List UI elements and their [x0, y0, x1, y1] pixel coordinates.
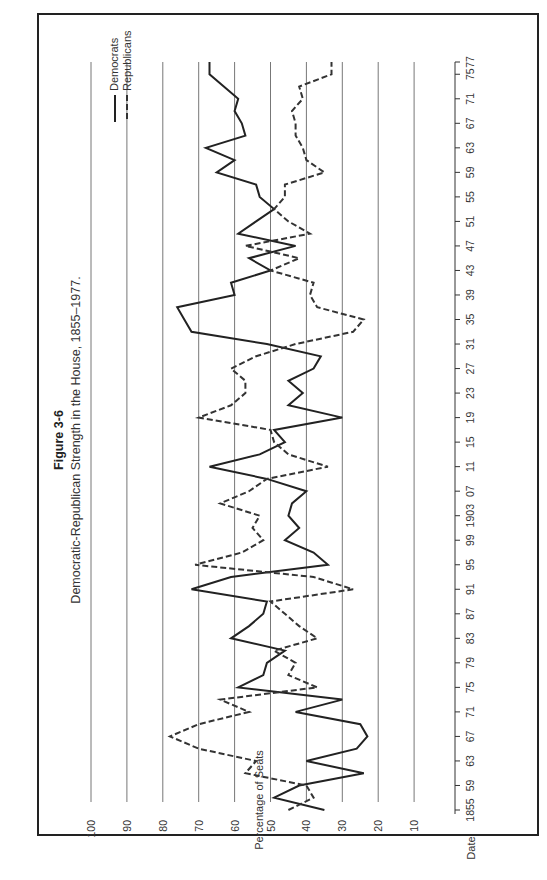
- x-tick-label: 99: [464, 534, 476, 546]
- legend-republicans-label: Republicans: [121, 30, 133, 91]
- x-axis: 1855596367717579838791959919030711151923…: [455, 56, 476, 822]
- x-tick-label: 1855: [464, 798, 476, 822]
- x-tick-label: 71: [464, 706, 476, 718]
- chart-subtitle: Democratic-Republican Strength in the Ho…: [69, 276, 83, 603]
- series-lines: [170, 62, 367, 810]
- x-tick-label: 87: [464, 608, 476, 620]
- x-tick-label: 27: [464, 363, 476, 375]
- x-tick-label: 59: [464, 166, 476, 178]
- series-democrats: [177, 62, 367, 810]
- x-tick-label: 75: [464, 681, 476, 693]
- x-tick-label: 77: [464, 56, 476, 68]
- x-tick-label: 19: [464, 412, 476, 424]
- y-tick-label: 40: [300, 820, 312, 832]
- x-tick-label: 51: [464, 215, 476, 227]
- x-tick-label: 63: [464, 142, 476, 154]
- x-tick-label: 79: [464, 657, 476, 669]
- y-axis-label: Percentage of Seats: [253, 750, 265, 850]
- y-tick-label: 100: [85, 820, 97, 838]
- y-tick-label: 20: [372, 820, 384, 832]
- y-tick-label: 70: [193, 820, 205, 832]
- x-tick-label: 23: [464, 387, 476, 399]
- x-tick-label: 15: [464, 436, 476, 448]
- x-tick-label: 63: [464, 755, 476, 767]
- x-tick-label: 11: [464, 461, 476, 472]
- x-tick-label: 71: [464, 93, 476, 105]
- chart-frame: [38, 14, 538, 835]
- x-tick-label: 43: [464, 264, 476, 276]
- x-axis-label: Date: [465, 836, 477, 859]
- y-tick-label: 90: [121, 820, 133, 832]
- legend: Democrats Republicans: [108, 30, 133, 122]
- gridlines: [91, 62, 414, 802]
- x-tick-label: 55: [464, 191, 476, 203]
- x-tick-label: 67: [464, 730, 476, 742]
- x-tick-label: 47: [464, 240, 476, 252]
- x-tick-label: 07: [464, 485, 476, 497]
- legend-democrats-label: Democrats: [108, 37, 120, 91]
- y-tick-label: 60: [229, 820, 241, 832]
- x-tick-label: 35: [464, 314, 476, 326]
- x-tick-label: 39: [464, 289, 476, 301]
- chart: Figure 3-6 Democratic-Republican Strengt…: [0, 0, 547, 880]
- x-tick-label: 91: [464, 583, 476, 595]
- chart-title: Figure 3-6: [52, 410, 66, 470]
- x-tick-label: 83: [464, 632, 476, 644]
- x-tick-label: 95: [464, 559, 476, 571]
- y-tick-label: 80: [157, 820, 169, 832]
- y-tick-label: 50: [265, 820, 277, 832]
- y-tick-label: 10: [408, 820, 420, 832]
- x-tick-label: 31: [464, 338, 476, 350]
- x-tick-label: 59: [464, 779, 476, 791]
- x-tick-label: 75: [464, 68, 476, 80]
- x-tick-label: 1903: [464, 504, 476, 528]
- x-tick-label: 67: [464, 117, 476, 129]
- y-tick-label: 30: [336, 820, 348, 832]
